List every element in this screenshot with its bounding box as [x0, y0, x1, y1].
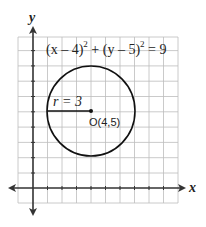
center-point [89, 109, 93, 113]
equation-part1: (x – 4) [46, 42, 84, 58]
x-axis [8, 184, 186, 192]
equation-part2: (y – 5) [103, 42, 141, 58]
circle-equation: (x – 4)2 + (y – 5)2 = 9 [46, 39, 166, 58]
equation-plus: + [88, 42, 103, 57]
equation-rhs: = 9 [145, 42, 167, 57]
radius-label: r = 3 [53, 94, 82, 109]
y-axis-label: y [27, 10, 36, 25]
x-axis-label: x [188, 180, 196, 195]
center-label: O(4,5) [89, 116, 120, 128]
circle-diagram: y x (x – 4)2 + (y – 5)2 = 9 r = 3 O(4,5) [0, 0, 206, 227]
